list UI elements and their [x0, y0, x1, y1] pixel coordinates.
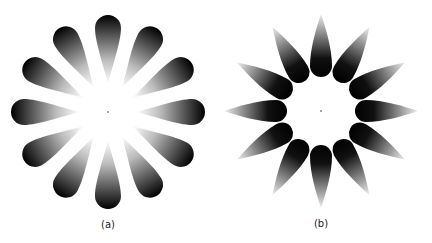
center-dot-a	[107, 111, 109, 113]
center-dot-b	[320, 110, 322, 112]
petal	[310, 145, 332, 208]
petal	[11, 99, 80, 125]
petal	[224, 100, 287, 122]
diagram-canvas	[0, 0, 432, 243]
petal	[355, 100, 418, 122]
figure-label-a: (a)	[101, 219, 115, 230]
petal	[95, 140, 121, 209]
petal	[95, 15, 121, 84]
petal	[310, 14, 332, 77]
petal	[136, 99, 205, 125]
figure-label-b: (b)	[314, 218, 328, 229]
